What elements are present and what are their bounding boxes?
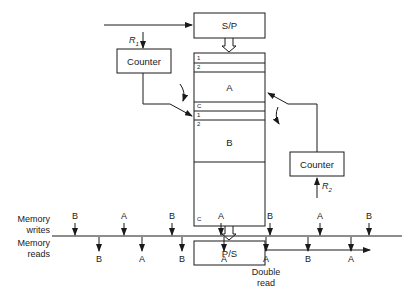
read-label: B [93, 254, 105, 264]
counter-left-label: Counter [117, 56, 171, 67]
read-label: A [345, 254, 357, 264]
reads-label: Memoryreads [0, 238, 50, 260]
counter-right-label: Counter [290, 159, 344, 170]
read-label: A [136, 254, 148, 264]
read-label: B [176, 254, 188, 264]
write-label: A [215, 211, 227, 221]
b-row-c: C [197, 216, 201, 222]
a-row-2: 2 [197, 64, 200, 70]
r2-label: R2 [322, 181, 332, 193]
read-label: B [302, 254, 314, 264]
buffer-a-label: A [194, 82, 265, 93]
r1-label: R1 [129, 35, 139, 47]
b-row-2: 2 [197, 121, 200, 127]
write-label: B [363, 211, 375, 221]
read-label: A [260, 254, 272, 264]
a-row-1: 1 [197, 55, 200, 61]
write-label: B [69, 211, 81, 221]
read-label: A [218, 254, 230, 264]
buffer-b-label: B [194, 137, 265, 148]
double-read-annotation: Doubleread [246, 267, 286, 289]
write-label: B [264, 211, 276, 221]
sp-label: S/P [194, 20, 265, 31]
write-label: A [118, 211, 130, 221]
write-label: A [314, 211, 326, 221]
write-label: B [166, 211, 178, 221]
b-row-1: 1 [197, 112, 200, 118]
a-row-c: C [197, 103, 201, 109]
writes-label: Memorywrites [0, 214, 50, 236]
